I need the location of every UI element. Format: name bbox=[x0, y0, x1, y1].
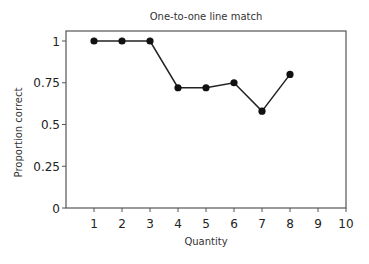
data-point bbox=[90, 37, 97, 44]
y-tick-label: 0 bbox=[52, 202, 60, 216]
data-point bbox=[258, 108, 265, 115]
data-point bbox=[146, 37, 153, 44]
x-tick-label: 3 bbox=[146, 217, 154, 231]
data-point bbox=[286, 71, 293, 78]
y-tick-label: 0.5 bbox=[41, 118, 60, 132]
data-point bbox=[230, 79, 237, 86]
x-tick-label: 10 bbox=[338, 217, 353, 231]
plot-frame bbox=[66, 31, 346, 208]
x-tick-label: 2 bbox=[118, 217, 126, 231]
x-tick-label: 1 bbox=[90, 217, 98, 231]
y-tick-label: 0.75 bbox=[33, 76, 60, 90]
y-tick-label: 0.25 bbox=[33, 160, 60, 174]
chart-container: One-to-one line match Proportion correct… bbox=[0, 0, 369, 264]
plot-area: 1234567891000.250.50.751 bbox=[0, 0, 369, 264]
x-tick-label: 8 bbox=[286, 217, 294, 231]
x-tick-label: 9 bbox=[314, 217, 322, 231]
x-tick-label: 4 bbox=[174, 217, 182, 231]
x-tick-label: 7 bbox=[258, 217, 266, 231]
data-point bbox=[118, 37, 125, 44]
y-tick-label: 1 bbox=[52, 35, 60, 49]
data-point bbox=[174, 84, 181, 91]
data-point bbox=[202, 84, 209, 91]
x-tick-label: 6 bbox=[230, 217, 238, 231]
data-line bbox=[94, 41, 290, 111]
x-tick-label: 5 bbox=[202, 217, 210, 231]
